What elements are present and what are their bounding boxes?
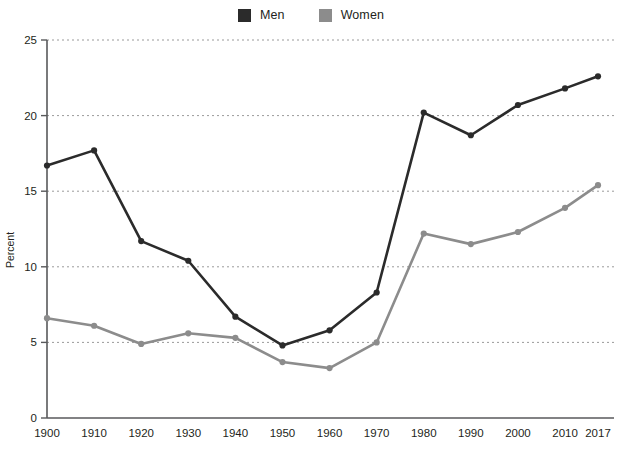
x-tick-label-2000: 2000 (505, 427, 531, 439)
data-point-men-2017 (595, 73, 601, 79)
y-tick-label-25: 25 (24, 34, 37, 46)
data-point-women-1920 (138, 341, 144, 347)
series-line-women (47, 185, 598, 368)
data-point-men-2010 (562, 85, 568, 91)
data-point-men-2000 (515, 102, 521, 108)
data-point-men-1970 (374, 289, 380, 295)
x-tick-label-2017: 2017 (585, 427, 611, 439)
x-tick-label-1940: 1940 (223, 427, 249, 439)
data-point-women-1990 (468, 241, 474, 247)
x-tick-label-2010: 2010 (552, 427, 578, 439)
data-point-women-1980 (421, 230, 427, 236)
chart-container: Men Women 0510152025 1900191019201930194… (0, 0, 622, 452)
series-line-men (47, 76, 598, 345)
y-tick-label-0: 0 (31, 412, 37, 424)
data-point-women-1950 (279, 359, 285, 365)
x-tick-label-1980: 1980 (411, 427, 437, 439)
data-point-men-1940 (232, 314, 238, 320)
data-point-men-1910 (91, 147, 97, 153)
data-point-men-1960 (326, 327, 332, 333)
data-point-men-1950 (279, 342, 285, 348)
data-series-group (44, 73, 601, 371)
x-tick-label-1920: 1920 (128, 427, 154, 439)
data-point-women-1970 (374, 339, 380, 345)
data-point-women-1930 (185, 330, 191, 336)
y-tick-label-15: 15 (24, 185, 37, 197)
x-tick-label-1900: 1900 (34, 427, 60, 439)
gridlines-group (47, 40, 614, 342)
data-point-women-2017 (595, 182, 601, 188)
x-tick-label-1930: 1930 (175, 427, 201, 439)
data-point-women-1940 (232, 335, 238, 341)
x-tick-labels-group: 1900191019201930194019501960197019801990… (34, 427, 611, 439)
data-point-women-1910 (91, 323, 97, 329)
data-point-men-1980 (421, 109, 427, 115)
data-point-women-2000 (515, 229, 521, 235)
data-point-women-1960 (326, 365, 332, 371)
y-tick-label-5: 5 (31, 336, 37, 348)
data-point-men-1900 (44, 162, 50, 168)
y-tick-labels-group: 0510152025 (24, 34, 37, 424)
x-tick-label-1960: 1960 (317, 427, 343, 439)
x-tick-label-1990: 1990 (458, 427, 484, 439)
y-tick-label-10: 10 (24, 261, 37, 273)
data-point-men-1920 (138, 238, 144, 244)
y-tick-label-20: 20 (24, 110, 37, 122)
x-tick-label-1970: 1970 (364, 427, 390, 439)
data-point-women-1900 (44, 315, 50, 321)
x-tick-label-1950: 1950 (270, 427, 296, 439)
data-point-men-1990 (468, 132, 474, 138)
x-tick-label-1910: 1910 (81, 427, 107, 439)
data-point-men-1930 (185, 258, 191, 264)
y-axis-title: Percent (4, 232, 16, 268)
axes-group (41, 40, 614, 418)
data-point-women-2010 (562, 205, 568, 211)
line-chart-plot: 0510152025 19001910192019301940195019601… (0, 0, 622, 452)
